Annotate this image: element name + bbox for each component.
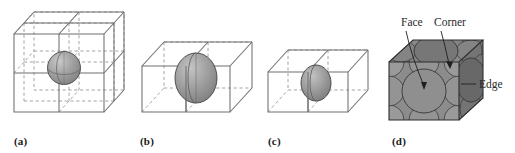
callout-label-face: Face	[401, 16, 423, 28]
panel-a: (a)	[0, 0, 130, 153]
figure-unit-cell-sphere-positions: (a)	[0, 0, 515, 153]
panel-d-diagram: Face Corner Edge	[375, 0, 515, 130]
panel-a-label: (a)	[14, 136, 27, 147]
panel-d-label: (d)	[392, 136, 406, 147]
panel-b-label: (b)	[140, 136, 154, 147]
panel-b-diagram	[130, 0, 260, 130]
callout-label-corner: Corner	[434, 16, 466, 28]
panel-d: Face Corner Edge (d)	[375, 0, 515, 153]
panel-c: (c)	[255, 0, 385, 153]
panel-b-sphere	[175, 53, 217, 103]
panel-b: (b)	[130, 0, 260, 153]
panel-a-diagram	[0, 0, 130, 130]
panel-c-sphere	[301, 65, 331, 101]
panel-c-diagram	[255, 0, 385, 130]
callout-label-edge: Edge	[479, 78, 503, 91]
panel-c-label: (c)	[268, 136, 281, 147]
panel-a-sphere	[48, 52, 81, 85]
